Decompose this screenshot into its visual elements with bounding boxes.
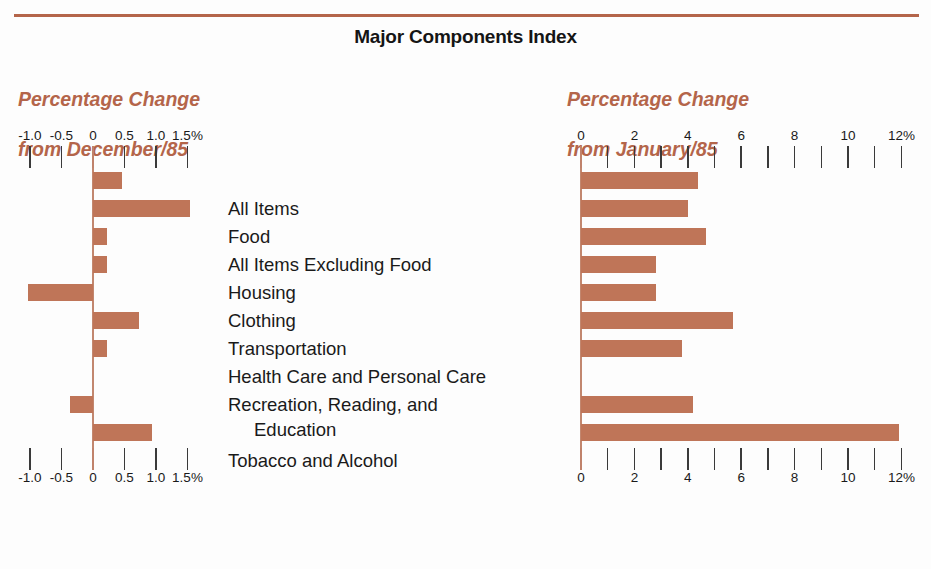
- left-axis-ticks-bottom: [0, 448, 225, 470]
- page-title: Major Components Index: [0, 26, 931, 48]
- category-label: Transportation: [228, 336, 554, 364]
- left-axis-ticks-top: [0, 146, 225, 168]
- axis-tick: [767, 146, 769, 168]
- category-label: Housing: [228, 280, 554, 308]
- axis-tick: [124, 448, 126, 470]
- axis-tick-label: 8: [791, 128, 799, 143]
- bar: [93, 200, 190, 217]
- axis-tick: [660, 146, 662, 168]
- axis-tick: [714, 448, 716, 470]
- bar: [581, 396, 693, 413]
- axis-tick-label: 12%: [888, 128, 915, 143]
- axis-tick: [155, 448, 157, 470]
- left-plot-area: [0, 168, 225, 448]
- axis-tick-label: 4: [684, 470, 692, 485]
- right-axis-labels-bottom: 024681012%: [555, 470, 931, 488]
- right-caption-line1: Percentage Change: [567, 88, 749, 110]
- axis-tick: [61, 448, 63, 470]
- bar: [93, 228, 107, 245]
- axis-tick-label: 0: [577, 128, 585, 143]
- right-plot-area: [555, 168, 931, 448]
- left-axis-labels-top: -1.0-0.500.51.01.5%: [0, 128, 225, 146]
- axis-tick: [687, 146, 689, 168]
- axis-tick: [634, 448, 636, 470]
- left-axis-labels-bottom: -1.0-0.500.51.01.5%: [0, 470, 225, 488]
- axis-tick-label: 0: [89, 128, 97, 143]
- axis-tick-label: 6: [737, 128, 745, 143]
- category-label: Tobacco and Alcohol: [228, 448, 554, 476]
- axis-tick-label: 0: [89, 470, 97, 485]
- axis-tick-label: 2: [631, 470, 639, 485]
- axis-tick-label: 8: [791, 470, 799, 485]
- axis-tick: [687, 448, 689, 470]
- axis-tick: [847, 146, 849, 168]
- category-label: All Items Excluding Food: [228, 252, 554, 280]
- axis-tick-label: -1.0: [18, 470, 41, 485]
- axis-zero-tick: [92, 146, 94, 168]
- bar: [93, 340, 107, 357]
- category-label: Health Care and Personal Care: [228, 364, 554, 392]
- axis-tick: [794, 146, 796, 168]
- axis-tick-label: 6: [737, 470, 745, 485]
- chart-page: Major Components Index Percentage Change…: [0, 0, 931, 569]
- bar: [70, 396, 93, 413]
- bar: [581, 200, 688, 217]
- right-axis-ticks-bottom: [555, 448, 931, 470]
- right-axis-ticks-top: [555, 146, 931, 168]
- right-chart-panel: 024681012% 024681012%: [555, 128, 931, 488]
- axis-tick: [901, 448, 903, 470]
- axis-tick-label: 12%: [888, 470, 915, 485]
- axis-tick-label: 1.0: [147, 470, 166, 485]
- bar: [581, 172, 698, 189]
- axis-tick: [607, 146, 609, 168]
- category-label-line1: Recreation, Reading, and: [228, 394, 438, 415]
- bar: [581, 312, 733, 329]
- bar: [581, 340, 682, 357]
- left-caption-line1: Percentage Change: [18, 88, 200, 110]
- axis-tick: [660, 448, 662, 470]
- axis-zero-tick: [92, 448, 94, 470]
- axis-tick: [821, 448, 823, 470]
- category-label: All Items: [228, 196, 554, 224]
- axis-tick: [187, 448, 189, 470]
- bar: [581, 424, 899, 441]
- category-label: Recreation, Reading, andEducation: [228, 392, 554, 448]
- axis-tick-label: 1.5%: [172, 128, 203, 143]
- axis-tick-label: 10: [840, 128, 855, 143]
- category-label: Food: [228, 224, 554, 252]
- axis-zero-tick: [580, 448, 582, 470]
- axis-tick: [124, 146, 126, 168]
- axis-tick: [740, 448, 742, 470]
- left-chart-panel: -1.0-0.500.51.01.5% -1.0-0.500.51.01.5%: [0, 128, 225, 488]
- axis-tick: [901, 146, 903, 168]
- axis-tick-label: 4: [684, 128, 692, 143]
- axis-tick: [61, 146, 63, 168]
- axis-tick: [874, 448, 876, 470]
- bar: [93, 172, 122, 189]
- axis-tick: [714, 146, 716, 168]
- axis-tick: [847, 448, 849, 470]
- category-label: Clothing: [228, 308, 554, 336]
- category-label-line2: Education: [228, 417, 554, 442]
- axis-tick-label: 1.0: [147, 128, 166, 143]
- right-axis-labels-top: 024681012%: [555, 128, 931, 146]
- category-label-list: All ItemsFoodAll Items Excluding FoodHou…: [228, 196, 554, 476]
- axis-tick-label: 0.5: [115, 128, 134, 143]
- axis-zero-tick: [580, 146, 582, 168]
- bar: [93, 424, 152, 441]
- axis-tick: [634, 146, 636, 168]
- axis-tick-label: 1.5%: [172, 470, 203, 485]
- top-divider-rule: [14, 14, 919, 17]
- axis-tick: [607, 448, 609, 470]
- axis-tick-label: 0.5: [115, 470, 134, 485]
- axis-tick: [767, 448, 769, 470]
- axis-tick: [187, 146, 189, 168]
- bar: [93, 256, 107, 273]
- bar: [93, 312, 139, 329]
- axis-tick-label: 2: [631, 128, 639, 143]
- axis-tick-label: -0.5: [50, 128, 73, 143]
- axis-tick: [740, 146, 742, 168]
- axis-tick: [155, 146, 157, 168]
- axis-tick-label: 10: [840, 470, 855, 485]
- axis-tick: [794, 448, 796, 470]
